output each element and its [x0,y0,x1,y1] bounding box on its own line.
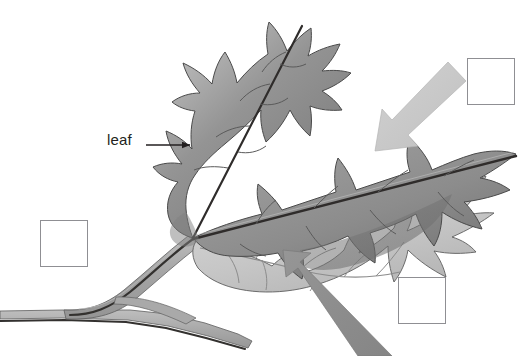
twig-branch [0,310,252,349]
answer-box-left[interactable] [40,220,88,267]
answer-box-bottom-right[interactable] [398,277,446,324]
label-leaf: leaf [107,131,132,149]
leaf-illustration [0,0,530,356]
leaf-diagram-canvas: leaf [0,0,530,356]
answer-box-top-right[interactable] [467,58,515,105]
upper-right-arrow [375,62,466,151]
